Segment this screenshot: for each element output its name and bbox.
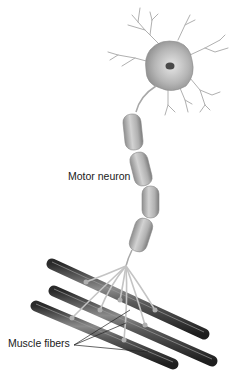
- muscle-fibers-label: Muscle fibers: [8, 337, 70, 349]
- diagram-canvas: [0, 0, 239, 380]
- myelin-sheath: [122, 113, 159, 254]
- neuron-cell-body: [146, 41, 194, 91]
- motor-neuron-label: Motor neuron: [68, 170, 130, 182]
- nucleus: [166, 63, 175, 70]
- neuron-diagram: Motor neuron Muscle fibers: [0, 0, 239, 380]
